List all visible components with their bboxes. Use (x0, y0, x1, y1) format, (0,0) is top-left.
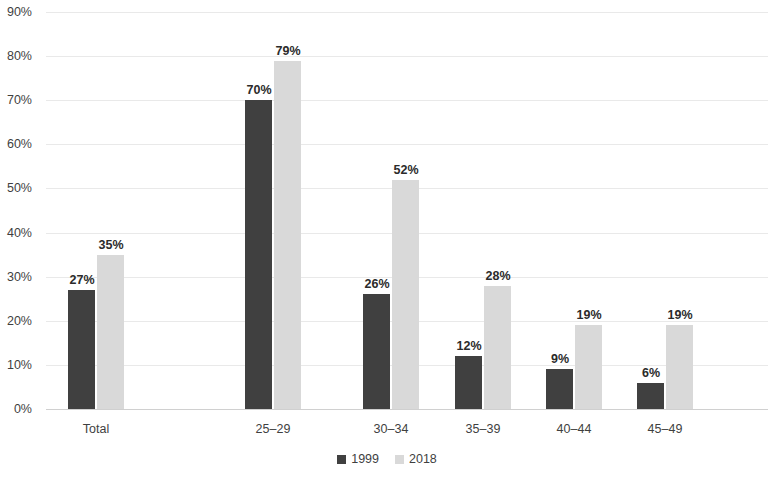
bar-group: 27%35%Total (68, 12, 124, 409)
y-axis-tick-label: 80% (0, 49, 32, 63)
bar-value-label: 19% (566, 308, 612, 322)
bar[interactable] (274, 61, 301, 409)
bar[interactable] (666, 325, 693, 409)
bar-group: 26%52%30–34 (363, 12, 419, 409)
chart-legend: 19992018 (0, 452, 774, 466)
bar-value-label: 79% (265, 44, 311, 58)
bar-value-label: 35% (88, 238, 134, 252)
bar-value-label: 19% (657, 308, 703, 322)
legend-label: 2018 (409, 452, 437, 466)
y-axis-tick-label: 90% (0, 5, 32, 19)
y-axis-tick-label: 20% (0, 314, 32, 328)
bar[interactable] (455, 356, 482, 409)
y-axis-tick-label: 0% (0, 402, 32, 416)
bar-value-label: 28% (475, 269, 521, 283)
bar[interactable] (245, 100, 272, 409)
bar[interactable] (484, 286, 511, 410)
bar[interactable] (575, 325, 602, 409)
y-axis-tick-label: 10% (0, 358, 32, 372)
bar-group: 12%28%35–39 (455, 12, 511, 409)
bar-group: 6%19%45–49 (637, 12, 693, 409)
bar[interactable] (68, 290, 95, 409)
x-axis-category-label: 45–49 (605, 422, 725, 436)
x-axis-category-label: Total (36, 422, 156, 436)
x-axis-category-label: 25–29 (213, 422, 333, 436)
plot-area: 0%10%20%30%40%50%60%70%80%90% 27%35%Tota… (46, 12, 768, 409)
legend-swatch-icon (395, 455, 404, 464)
bar-value-label: 52% (383, 163, 429, 177)
bar-group: 9%19%40–44 (546, 12, 602, 409)
y-axis-tick-label: 40% (0, 226, 32, 240)
bar-chart: 0%10%20%30%40%50%60%70%80%90% 27%35%Tota… (0, 0, 774, 484)
bar[interactable] (392, 180, 419, 409)
y-axis-tick-label: 30% (0, 270, 32, 284)
bar[interactable] (97, 255, 124, 409)
bar[interactable] (546, 369, 573, 409)
y-axis-tick-label: 50% (0, 181, 32, 195)
y-axis-tick-label: 60% (0, 137, 32, 151)
bar[interactable] (637, 383, 664, 409)
legend-item[interactable]: 1999 (337, 452, 379, 466)
legend-swatch-icon (337, 455, 346, 464)
bar[interactable] (363, 294, 390, 409)
legend-item[interactable]: 2018 (395, 452, 437, 466)
x-axis-line (46, 409, 768, 410)
bar-group: 70%79%25–29 (245, 12, 301, 409)
y-axis-tick-label: 70% (0, 93, 32, 107)
legend-label: 1999 (351, 452, 379, 466)
